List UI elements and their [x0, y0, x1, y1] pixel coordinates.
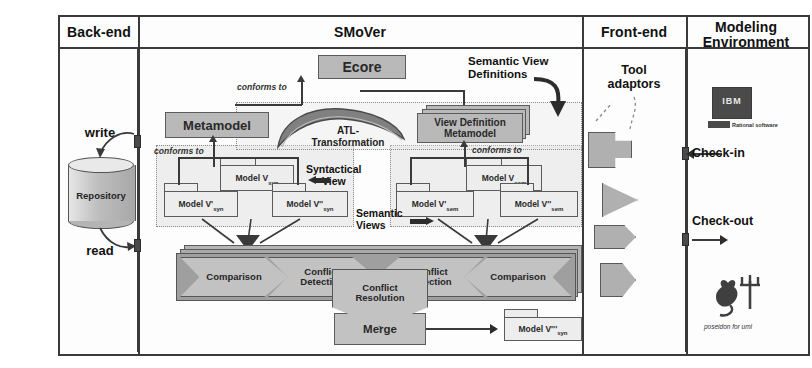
result-model-sub: syn	[557, 330, 567, 340]
model-v2syn-name: Model V''	[287, 199, 324, 209]
vdm-line2: Metamodel	[444, 128, 496, 139]
model-v2syn-tab	[272, 183, 306, 191]
adaptor-triangle-shape	[602, 183, 638, 217]
conforms-to-left-label: conforms to	[237, 82, 287, 92]
model-v1syn-name: Model V'	[179, 199, 214, 209]
vdm-to-ecore-horizontal	[360, 90, 464, 92]
model-v2sem-name: Model V''	[515, 199, 552, 209]
vdm-line1: View Definition	[434, 117, 506, 128]
ecore-arrow-shaft	[301, 81, 303, 105]
semantic-bracket-right	[527, 157, 529, 185]
adaptor-plug-shape	[588, 132, 632, 168]
syntactical-view-line1: Syntactical	[306, 163, 361, 175]
model-vsyn-name: Model V	[236, 173, 269, 183]
tool-adaptors-label: Tool adaptors	[584, 63, 684, 91]
column-header-smover: SMoVer	[138, 25, 582, 40]
atl-label-line2: Transformation	[312, 137, 385, 148]
atl-label: ATL- Transformation	[294, 125, 402, 149]
rational-logo-caption: Rational software	[732, 122, 778, 128]
model-vsem-name: Model V	[482, 173, 515, 183]
poseidon-caption: poseidon for uml	[704, 323, 804, 330]
chevron-comparison-right-label: Comparison	[490, 272, 545, 282]
port-checkout	[682, 233, 689, 246]
merge-result-arrow-shaft	[426, 328, 492, 330]
model-v1sem-tab	[396, 183, 430, 191]
syntactic-bracket-left	[178, 157, 180, 185]
tool-adaptor-leaders	[590, 95, 660, 131]
model-v1syn-tab	[164, 183, 198, 191]
syntactic-bracket-top	[178, 157, 298, 159]
semantic-bracket-top	[410, 157, 528, 159]
frontend-boundary-line	[685, 47, 687, 352]
semantic-view-definitions-arrow	[526, 75, 576, 123]
model-v1syn-box: Model V'syn	[164, 191, 238, 217]
ibm-logo: IBM	[712, 87, 752, 119]
checkout-arrow-head	[720, 235, 728, 245]
port-read	[134, 239, 141, 252]
model-v2sem-box: Model V''sem	[500, 191, 578, 217]
rational-logo-bar	[708, 121, 730, 128]
diagram-frame: Back-end SMoVer Front-end Modeling Envir…	[58, 15, 810, 356]
model-v2syn-box: Model V''syn	[272, 191, 348, 217]
adaptor-d-shape	[600, 263, 636, 297]
column-header-backend: Back-end	[60, 25, 138, 40]
tool-adaptors-line1: Tool	[621, 63, 646, 77]
ibm-logo-text: IBM	[713, 96, 751, 106]
ecore-box: Ecore	[318, 55, 406, 79]
checkin-label: Check-in	[692, 147, 802, 159]
chevron-comparison-left-label: Comparison	[206, 272, 261, 282]
backend-boundary-line	[137, 47, 139, 352]
tool-adaptors-line2: adaptors	[608, 77, 661, 91]
adaptor-tag-shape	[594, 225, 636, 249]
column-header-modeling-line1: Modeling	[715, 19, 777, 35]
column-header-modeling: Modeling Environment	[686, 20, 806, 50]
semantic-bracket-stem	[464, 149, 466, 159]
conforms-to-metamodel-label: conforms to	[154, 146, 204, 156]
port-write	[134, 135, 141, 148]
result-model-box: Model V'''syn	[504, 317, 582, 341]
model-v2sem-tab	[500, 183, 534, 191]
syntactic-bracket-right	[297, 157, 299, 185]
metamodel-box: Metamodel	[165, 112, 269, 138]
metamodel-conforms-head	[209, 135, 217, 142]
poseidon-logo	[706, 275, 772, 321]
column-header-modeling-line2: Environment	[703, 34, 790, 50]
semantic-conforms-head	[460, 140, 468, 147]
ecore-arrow-head	[297, 75, 305, 82]
svd-line1: Semantic View	[468, 55, 548, 67]
column-header-frontend: Front-end	[582, 25, 686, 40]
atl-label-line1: ATL-	[337, 125, 359, 136]
view-definition-metamodel-box: View Definition Metamodel	[417, 113, 523, 143]
conforms-to-right-label: conforms to	[472, 145, 522, 155]
checkout-label: Check-out	[692, 215, 802, 227]
result-model-name: Model V'''	[519, 324, 558, 334]
syntactical-view-arrow	[308, 176, 330, 185]
syntactic-bracket-stem	[213, 149, 215, 159]
result-model-tab	[504, 309, 538, 317]
conflict-resolution-line2: Resolution	[355, 293, 404, 303]
merge-result-arrow-head	[490, 324, 498, 334]
checkout-arrow-shaft	[692, 239, 722, 241]
diagram-root: Back-end SMoVer Front-end Modeling Envir…	[0, 0, 812, 368]
semantic-bracket-left	[410, 157, 412, 185]
svd-line2: Definitions	[468, 68, 527, 80]
